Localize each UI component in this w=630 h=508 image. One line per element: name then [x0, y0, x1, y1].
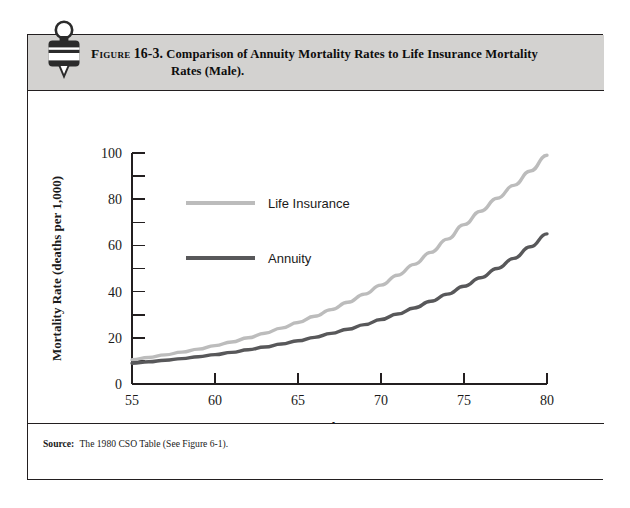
x-tick-label: 55: [125, 393, 139, 408]
y-tick-label: 100: [101, 146, 122, 161]
chart-plot-area: 020406080100 556065707580 Life Insurance…: [28, 91, 604, 425]
series-line-annuity: [132, 234, 547, 363]
y-tick-label: 40: [108, 285, 122, 300]
figure-number: 16-3.: [134, 46, 163, 61]
seal-badge-icon: [42, 19, 86, 81]
figure-title-banner: Figure 16-3. Comparison of Annuity Morta…: [28, 35, 604, 91]
mortality-rate-line-chart: 020406080100 556065707580 Life Insurance…: [28, 91, 604, 425]
y-tick-label: 80: [108, 192, 122, 207]
legend-label: Annuity: [268, 251, 312, 266]
x-tick-label: 65: [291, 393, 305, 408]
x-tick-label: 70: [374, 393, 388, 408]
x-axis-tick-labels: 556065707580: [125, 393, 554, 408]
source-footer: Source: The 1980 CSO Table (See Figure 6…: [28, 423, 604, 479]
figure-title: Figure 16-3. Comparison of Annuity Morta…: [91, 45, 538, 80]
y-tick-label: 60: [108, 238, 122, 253]
source-label: Source:: [43, 438, 74, 449]
x-tick-label: 60: [208, 393, 222, 408]
figure-container: Figure 16-3. Comparison of Annuity Morta…: [27, 34, 603, 480]
figure-title-line2: Rates (Male).: [171, 63, 538, 80]
y-tick-label: 20: [108, 331, 122, 346]
y-tick-label: 0: [115, 377, 122, 392]
x-tick-label: 75: [457, 393, 471, 408]
figure-label: Figure: [91, 46, 130, 61]
x-tick-label: 80: [540, 393, 554, 408]
y-axis-tick-labels: 020406080100: [101, 146, 122, 392]
source-note: Source: The 1980 CSO Table (See Figure 6…: [43, 438, 228, 449]
y-axis-title: Mortality Rate (deaths per 1,000): [49, 176, 64, 361]
source-citation: The 1980 CSO Table (See Figure 6-1).: [80, 438, 229, 449]
legend-label: Life Insurance: [268, 196, 350, 211]
chart-legend: Life InsuranceAnnuity: [186, 196, 350, 266]
figure-title-line1: Comparison of Annuity Mortality Rates to…: [166, 47, 538, 61]
